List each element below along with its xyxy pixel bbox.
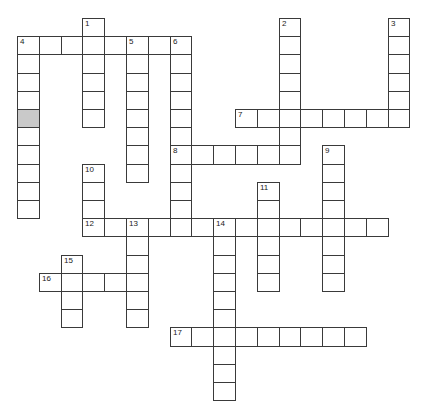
grid-cell[interactable] [17, 54, 40, 74]
grid-cell[interactable] [126, 91, 149, 110]
grid-cell[interactable] [213, 145, 236, 165]
grid-cell[interactable] [279, 109, 301, 128]
grid-cell[interactable] [279, 36, 301, 55]
grid-cell[interactable]: 15 [61, 255, 83, 274]
grid-cell[interactable]: 6 [170, 36, 192, 55]
grid-cell[interactable] [366, 218, 389, 237]
grid-cell[interactable] [279, 218, 301, 237]
grid-cell[interactable]: 14 [213, 218, 236, 237]
grid-cell[interactable] [61, 36, 83, 55]
grid-cell[interactable]: 1 [82, 18, 105, 37]
grid-cell[interactable] [344, 218, 367, 237]
grid-cell[interactable] [300, 327, 323, 347]
grid-cell[interactable]: 5 [126, 36, 149, 55]
grid-cell[interactable] [191, 218, 214, 237]
grid-cell[interactable]: 2 [279, 18, 301, 37]
grid-cell[interactable] [170, 73, 192, 92]
grid-cell[interactable]: 12 [82, 218, 105, 237]
grid-cell[interactable] [322, 218, 345, 237]
grid-cell[interactable] [17, 127, 40, 146]
grid-cell[interactable]: 13 [126, 218, 149, 237]
grid-cell[interactable] [257, 236, 280, 256]
grid-cell[interactable] [17, 91, 40, 110]
grid-cell[interactable] [126, 127, 149, 146]
grid-cell[interactable] [170, 127, 192, 146]
grid-cell[interactable] [126, 255, 149, 274]
grid-cell[interactable] [82, 109, 105, 128]
grid-cell[interactable]: 8 [170, 145, 192, 165]
grid-cell[interactable] [82, 54, 105, 74]
grid-cell[interactable] [170, 164, 192, 183]
grid-cell[interactable] [235, 218, 258, 237]
grid-cell[interactable] [39, 36, 62, 55]
grid-cell[interactable] [279, 327, 301, 347]
grid-cell[interactable] [82, 273, 105, 292]
grid-cell[interactable] [213, 327, 236, 347]
grid-cell[interactable] [148, 36, 171, 55]
grid-cell[interactable] [170, 200, 192, 219]
grid-cell[interactable] [213, 273, 236, 292]
grid-cell[interactable] [322, 273, 345, 292]
grid-cell[interactable] [126, 164, 149, 183]
grid-cell[interactable] [322, 200, 345, 219]
grid-cell[interactable] [61, 309, 83, 328]
grid-cell[interactable] [126, 309, 149, 328]
grid-cell[interactable] [126, 291, 149, 310]
grid-cell[interactable] [82, 200, 105, 219]
grid-cell[interactable] [191, 145, 214, 165]
grid-cell[interactable] [213, 346, 236, 365]
grid-cell[interactable] [61, 273, 83, 292]
grid-cell[interactable] [213, 364, 236, 383]
grid-cell[interactable]: 17 [170, 327, 192, 347]
grid-cell[interactable] [213, 291, 236, 310]
grid-cell[interactable] [17, 200, 40, 219]
grid-cell[interactable] [388, 73, 410, 92]
grid-cell[interactable] [170, 109, 192, 128]
grid-cell[interactable] [17, 73, 40, 92]
grid-cell[interactable] [257, 109, 280, 128]
grid-cell[interactable] [257, 273, 280, 292]
grid-cell[interactable] [17, 182, 40, 201]
grid-cell[interactable] [213, 382, 236, 401]
grid-cell[interactable] [126, 273, 149, 292]
grid-cell[interactable]: 9 [322, 145, 345, 165]
grid-cell[interactable] [388, 54, 410, 74]
grid-cell[interactable] [322, 182, 345, 201]
grid-cell[interactable] [104, 218, 127, 237]
grid-cell[interactable] [279, 54, 301, 74]
grid-cell[interactable]: 3 [388, 18, 410, 37]
grid-cell[interactable] [257, 145, 280, 165]
grid-cell[interactable] [82, 91, 105, 110]
grid-cell[interactable]: 7 [235, 109, 258, 128]
grid-cell[interactable] [126, 109, 149, 128]
grid-cell[interactable] [126, 73, 149, 92]
grid-cell[interactable] [17, 109, 40, 128]
grid-cell[interactable] [388, 109, 410, 128]
grid-cell[interactable] [366, 109, 389, 128]
grid-cell[interactable] [82, 36, 105, 55]
grid-cell[interactable] [279, 127, 301, 146]
grid-cell[interactable] [344, 327, 367, 347]
grid-cell[interactable] [344, 109, 367, 128]
grid-cell[interactable] [257, 327, 280, 347]
grid-cell[interactable] [279, 91, 301, 110]
grid-cell[interactable] [235, 327, 258, 347]
grid-cell[interactable] [126, 54, 149, 74]
grid-cell[interactable]: 16 [39, 273, 62, 292]
grid-cell[interactable] [17, 164, 40, 183]
grid-cell[interactable] [17, 145, 40, 165]
grid-cell[interactable] [170, 218, 192, 237]
grid-cell[interactable] [126, 145, 149, 165]
grid-cell[interactable] [104, 36, 127, 55]
grid-cell[interactable] [170, 91, 192, 110]
grid-cell[interactable] [388, 91, 410, 110]
grid-cell[interactable]: 10 [82, 164, 105, 183]
grid-cell[interactable]: 4 [17, 36, 40, 55]
grid-cell[interactable] [82, 182, 105, 201]
grid-cell[interactable] [300, 218, 323, 237]
grid-cell[interactable] [279, 73, 301, 92]
grid-cell[interactable] [61, 291, 83, 310]
grid-cell[interactable] [257, 218, 280, 237]
grid-cell[interactable] [104, 273, 127, 292]
grid-cell[interactable] [279, 145, 301, 165]
